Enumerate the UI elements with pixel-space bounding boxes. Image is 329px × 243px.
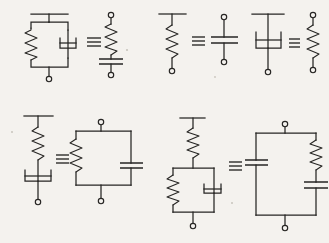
equivalence-sign-3	[289, 39, 300, 47]
group-2-right-network	[211, 14, 238, 64]
terminal-circle-bottom	[265, 69, 270, 74]
equivalence-sign-4	[56, 155, 69, 163]
resistor-symbol-parallel	[167, 175, 179, 205]
group-4-left-network	[24, 116, 53, 205]
terminal-circle-bottom	[35, 199, 40, 204]
resistor-symbol	[105, 24, 117, 55]
resistor-symbol	[166, 25, 178, 58]
group-5-left-network	[167, 118, 221, 229]
terminal-circle-bottom	[108, 72, 113, 77]
equivalence-sign-5	[229, 162, 242, 170]
circuit-diagram-canvas	[0, 0, 329, 243]
resistor-symbol-series	[187, 128, 199, 158]
group-3-left-network	[252, 14, 284, 75]
wire-bottom-rail	[31, 58, 68, 67]
wire-top-right	[49, 22, 68, 30]
terminal-circle-top	[98, 119, 103, 124]
terminal-circle-bottom	[310, 67, 315, 72]
group-3-right-network	[307, 12, 319, 72]
group-2-left-network	[159, 14, 186, 74]
group-4-right-network	[70, 119, 143, 203]
wire-top-left	[31, 22, 49, 28]
equivalence-sign-1	[87, 38, 101, 46]
terminal-circle-top	[282, 121, 287, 126]
group-1-right-network	[99, 12, 123, 77]
equivalence-sign-2	[192, 37, 205, 45]
resistor-symbol	[307, 25, 319, 58]
resistor-symbol	[310, 140, 322, 170]
terminal-circle-top	[108, 12, 113, 17]
terminal-circle-bottom	[221, 59, 226, 64]
circuit-equivalence-figure: Circuit equivalence diagram ≡ Resistor i…	[0, 0, 329, 243]
terminal-circle-top	[310, 12, 315, 17]
resistor-symbol	[70, 139, 82, 172]
resistor-symbol	[32, 127, 44, 160]
resistor-symbol	[25, 28, 37, 60]
group-5-right-network	[245, 121, 328, 230]
terminal-circle-bottom	[169, 68, 174, 73]
terminal-circle-bottom	[190, 223, 195, 228]
terminal-circle-bottom	[46, 76, 51, 81]
group-1-left-network	[25, 14, 76, 82]
terminal-circle-top	[221, 14, 226, 19]
terminal-circle-bottom	[282, 225, 287, 230]
terminal-circle-bottom	[98, 198, 103, 203]
